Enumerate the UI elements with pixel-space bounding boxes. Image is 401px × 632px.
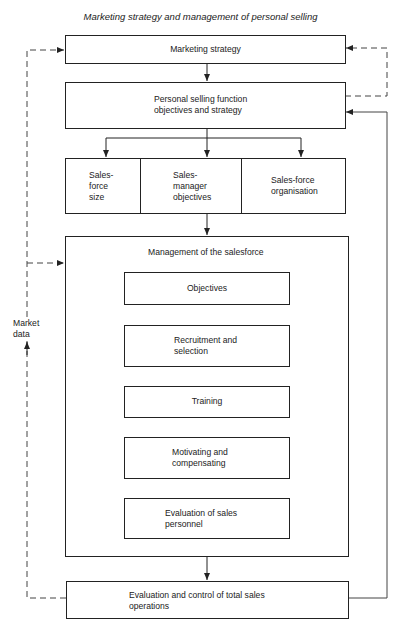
recruitment-selection-box: Recruitment and selection [124, 325, 290, 367]
salesforce-size-box: Sales- force size [65, 158, 141, 214]
marketing-strategy-box: Marketing strategy [65, 35, 346, 64]
objectives-box: Objectives [124, 272, 290, 305]
training-box: Training [124, 386, 290, 418]
sales-manager-label-3: objectives [173, 192, 211, 203]
personal-selling-box: Personal selling function objectives and… [65, 82, 346, 129]
market-data-label-2: data [13, 329, 30, 340]
evaluation-personnel-box: Evaluation of sales personnel [124, 498, 290, 539]
evaluation-total-label-1: Evaluation and control of total sales [129, 590, 265, 601]
evaluation-personnel-label-2: personnel [165, 519, 203, 530]
evaluation-personnel-label-1: Evaluation of sales [165, 508, 237, 519]
sales-manager-label-2: manager [173, 181, 207, 192]
market-data-label-1: Market [13, 318, 39, 329]
motivating-label-2: compensating [172, 458, 226, 469]
salesforce-organisation-box: Sales-force organisation [241, 158, 346, 214]
salesforce-org-label-2: organisation [271, 186, 318, 197]
recruitment-label-1: Recruitment and [174, 335, 237, 346]
motivating-label-1: Motivating and [172, 447, 228, 458]
evaluation-total-label-2: operations [129, 601, 169, 612]
training-label: Training [125, 396, 289, 407]
personal-selling-label-2: objectives and strategy [154, 105, 242, 116]
management-label: Management of the salesforce [148, 247, 264, 258]
salesforce-size-label-3: size [89, 192, 104, 203]
sales-manager-label-1: Sales- [173, 170, 197, 181]
salesforce-org-label-1: Sales-force [271, 175, 314, 186]
recruitment-label-2: selection [174, 346, 208, 357]
salesforce-size-label-2: force [89, 181, 108, 192]
sales-manager-objectives-box: Sales- manager objectives [140, 158, 242, 214]
marketing-strategy-label: Marketing strategy [66, 44, 345, 55]
salesforce-size-label-1: Sales- [89, 170, 113, 181]
motivating-compensating-box: Motivating and compensating [124, 437, 290, 479]
objectives-label: Objectives [125, 283, 289, 294]
personal-selling-label-1: Personal selling function [154, 94, 247, 105]
evaluation-total-box: Evaluation and control of total sales op… [66, 581, 349, 619]
